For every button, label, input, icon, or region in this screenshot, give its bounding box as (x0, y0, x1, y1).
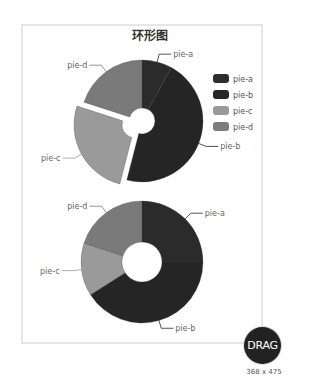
donut-chart-1: pie-apie-bpie-cpie-d (41, 50, 240, 184)
drag-button[interactable]: DRAG (244, 327, 281, 364)
legend-item-pie-b[interactable]: pie-b (233, 91, 253, 100)
slice-pie-c[interactable] (74, 106, 132, 184)
legend-item-pie-c[interactable]: pie-c (233, 107, 253, 116)
slice-label-pie-d: pie-d (67, 61, 87, 70)
legend-swatch-pie-a[interactable] (213, 74, 229, 83)
slice-pie-d[interactable] (84, 60, 142, 117)
legend-item-pie-a[interactable]: pie-a (233, 75, 253, 84)
slice-label-pie-b: pie-b (220, 142, 240, 151)
slice-label-pie-c: pie-c (40, 267, 60, 276)
legend-swatch-pie-b[interactable] (213, 90, 229, 99)
legend-item-pie-d[interactable]: pie-d (233, 123, 253, 132)
slice-label-pie-a: pie-a (173, 50, 193, 59)
legend: pie-apie-bpie-cpie-d (213, 74, 253, 132)
slice-pie-a[interactable] (142, 201, 203, 262)
size-label: 368 x 475 (244, 368, 284, 376)
legend-swatch-pie-c[interactable] (213, 106, 229, 115)
slice-label-pie-b: pie-b (175, 324, 195, 333)
donut-chart-2: pie-apie-bpie-cpie-d (40, 201, 225, 333)
legend-swatch-pie-d[interactable] (213, 122, 229, 131)
slice-label-pie-a: pie-a (205, 209, 225, 218)
slice-label-pie-c: pie-c (41, 154, 61, 163)
slice-label-pie-d: pie-d (67, 202, 87, 211)
